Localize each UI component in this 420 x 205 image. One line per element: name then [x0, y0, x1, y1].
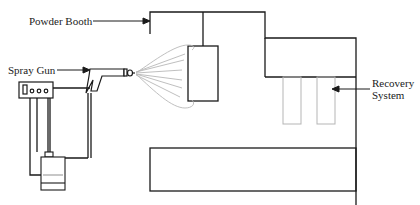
label-recovery-line1: Recovery — [372, 77, 414, 89]
arrow-head-booth-icon — [143, 18, 150, 24]
spray-gun-shape — [86, 69, 135, 93]
powder-booth-outline — [150, 12, 356, 205]
powder-booth-diagram: Powder Booth Spray Gun Recovery System — [0, 0, 420, 205]
base-platform — [150, 148, 356, 191]
arrow-head-gun-icon — [83, 67, 90, 73]
label-spray-gun: Spray Gun — [8, 64, 55, 76]
label-recovery-line2: System — [372, 89, 404, 101]
powder-hopper — [41, 152, 65, 190]
label-powder-booth: Powder Booth — [29, 15, 92, 27]
recovery-filters — [283, 77, 335, 124]
workpiece — [188, 46, 218, 101]
diagram-drawing — [0, 0, 420, 205]
spray-cone — [136, 45, 194, 108]
control-unit — [19, 82, 53, 98]
